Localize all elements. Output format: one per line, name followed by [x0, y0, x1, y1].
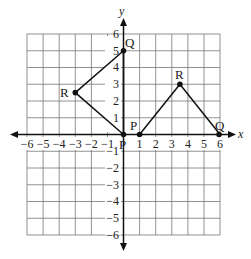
- label-left-q: Q: [125, 35, 135, 50]
- svg-text:−4: −4: [53, 137, 66, 151]
- point-left-r: [73, 90, 79, 96]
- y-axis-arrow-up-icon: [120, 18, 127, 26]
- svg-text:−4: −4: [106, 194, 119, 208]
- triangle-right: [140, 84, 220, 134]
- x-axis-arrow-right-icon: [228, 131, 236, 138]
- svg-text:4: 4: [113, 60, 119, 74]
- x-axis-label: x: [237, 127, 244, 141]
- label-right-p: P: [130, 118, 137, 133]
- svg-text:−3: −3: [69, 137, 82, 151]
- x-axis-arrow-left-icon: [10, 131, 18, 138]
- svg-text:1: 1: [137, 137, 143, 151]
- svg-text:−1: −1: [106, 144, 119, 158]
- svg-text:4: 4: [185, 137, 191, 151]
- y-axis-label: y: [118, 4, 125, 18]
- svg-text:−5: −5: [106, 211, 119, 225]
- y-axis-arrow-down-icon: [120, 243, 127, 251]
- svg-text:6: 6: [217, 137, 223, 151]
- svg-text:−2: −2: [106, 161, 119, 175]
- svg-text:3: 3: [169, 137, 175, 151]
- label-right-q: Q: [215, 118, 225, 133]
- svg-text:−6: −6: [21, 137, 34, 151]
- svg-text:1: 1: [113, 111, 119, 125]
- svg-text:−6: −6: [106, 228, 119, 242]
- label-right-r: R: [175, 67, 184, 82]
- label-left-p: P: [119, 137, 126, 152]
- point-right-r: [177, 81, 183, 87]
- svg-text:6: 6: [113, 27, 119, 41]
- svg-text:2: 2: [153, 137, 159, 151]
- label-left-r: R: [60, 85, 69, 100]
- svg-text:−5: −5: [37, 137, 50, 151]
- point-right-p: [137, 132, 143, 138]
- svg-text:2: 2: [113, 94, 119, 108]
- coordinate-plane: x y −6 −5 −4 −3 −2 −1 1 2 3 4 5 6 1 2 3 …: [0, 0, 251, 259]
- svg-text:−3: −3: [106, 178, 119, 192]
- svg-text:−2: −2: [85, 137, 98, 151]
- svg-text:3: 3: [113, 77, 119, 91]
- svg-text:5: 5: [201, 137, 207, 151]
